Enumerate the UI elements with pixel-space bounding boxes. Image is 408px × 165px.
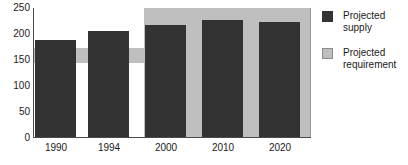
- legend-label-projected-supply-line1: Projected: [343, 10, 408, 22]
- y-tick-100: 100: [0, 81, 30, 91]
- y-tick-label-150: 150: [4, 55, 30, 65]
- y-tick-label-0: 0: [4, 133, 30, 143]
- bar-1990: [35, 40, 76, 137]
- y-tick-250: 250: [0, 3, 30, 13]
- y-tick-label-200: 200: [4, 29, 30, 39]
- bar-2000: [145, 25, 186, 138]
- legend-label-projected-requirement-line2: requirement: [343, 59, 408, 71]
- y-tick-50: 50: [0, 107, 30, 117]
- dark-square-swatch-icon: [322, 11, 333, 22]
- projected-supply-requirement-chart: 250 200 150 100 50 0 1990 1994 2000 2010…: [0, 0, 408, 165]
- x-tick-label-1990: 1990: [31, 142, 81, 154]
- y-tick-0: 0: [0, 133, 30, 143]
- plot-border-right: [310, 8, 311, 138]
- y-tick-label-100: 100: [4, 81, 30, 91]
- x-tick-label-2020: 2020: [255, 142, 305, 154]
- legend-item-projected-requirement: Projected requirement: [322, 47, 408, 71]
- bar-2010: [202, 20, 243, 137]
- y-tick-label-50: 50: [4, 107, 30, 117]
- chart-legend: Projected supply Projected requirement: [322, 10, 408, 84]
- bar-1994: [88, 31, 129, 137]
- y-tick-200: 200: [0, 29, 30, 39]
- gray-square-swatch-icon: [322, 48, 333, 59]
- x-tick-label-1994: 1994: [84, 142, 134, 154]
- x-tick-label-2000: 2000: [141, 142, 191, 154]
- x-tick-label-2010: 2010: [198, 142, 248, 154]
- y-tick-label-250: 250: [4, 3, 30, 13]
- plot-area: [34, 8, 310, 137]
- bar-2020: [259, 22, 300, 137]
- legend-label-projected-supply-line2: supply: [343, 22, 408, 34]
- legend-label-projected-requirement-line1: Projected: [343, 47, 408, 59]
- legend-item-projected-supply: Projected supply: [322, 10, 408, 34]
- x-axis-line: [33, 137, 311, 138]
- y-tick-150: 150: [0, 55, 30, 65]
